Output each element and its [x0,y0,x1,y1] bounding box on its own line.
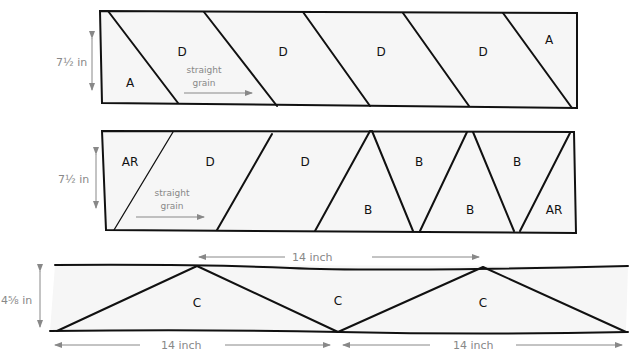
strip-2-outline [102,131,576,233]
grain-label: straight [187,65,222,75]
top-dimension-label: 14 inch [292,251,333,264]
piece-label: D [177,45,186,59]
piece-label: D [478,45,487,59]
piece-label: B [364,203,372,217]
grain-label: straight [155,188,190,198]
height-label: 7½ in [58,173,89,186]
strip-3: C C C 14 inch 14 inch 14 inch 4⅝ in [1,251,628,352]
piece-label: AR [546,203,563,217]
piece-label: AR [122,155,139,169]
piece-label: A [545,33,554,47]
height-label: 7½ in [56,56,87,69]
grain-label: grain [192,78,215,88]
piece-label: B [513,155,521,169]
piece-label: D [278,45,287,59]
strip-2: AR D D B B B B AR straight grain 7½ in [58,131,576,233]
grain-label: grain [160,201,183,211]
quilt-cutting-diagram: A D D D D A straight grain 7½ in AR D D … [0,0,635,356]
height-label: 4⅝ in [1,294,32,307]
piece-label: C [479,296,487,310]
piece-label: B [466,203,474,217]
strip-1: A D D D D A straight grain 7½ in [56,11,577,108]
piece-label: A [126,76,135,90]
piece-label: C [334,294,342,308]
piece-label: D [205,155,214,169]
piece-label: C [193,296,201,310]
piece-label: D [300,155,309,169]
bottom-dimension-right-label: 14 inch [453,339,494,352]
piece-label: B [415,155,423,169]
piece-label: D [376,45,385,59]
bottom-dimension-left-label: 14 inch [161,339,202,352]
